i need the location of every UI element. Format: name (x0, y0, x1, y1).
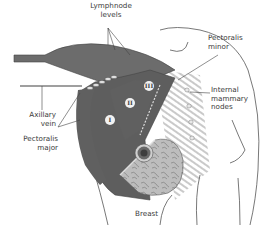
svg-text:II: II (127, 99, 133, 106)
level-marker-I: I (105, 115, 115, 125)
label-pectoralis-major: Pectoralis major (16, 135, 58, 152)
label-lymphnode-levels: Lymphnode levels (88, 2, 134, 19)
svg-text:III: III (145, 82, 154, 89)
label-pectoralis-minor: Pectoralis minor (208, 34, 243, 51)
anatomy-diagram: I II III Lymphnode levels Pectoralis mi (0, 0, 266, 231)
label-breast: Breast (135, 210, 158, 219)
svg-text:I: I (109, 116, 112, 123)
level-marker-III: III (144, 81, 154, 91)
label-internal-mammary-nodes: Internal mammary nodes (211, 86, 248, 112)
level-marker-II: II (125, 98, 135, 108)
nipple-areola (135, 144, 153, 162)
label-axillary-vein: Axillary vein (18, 111, 56, 128)
